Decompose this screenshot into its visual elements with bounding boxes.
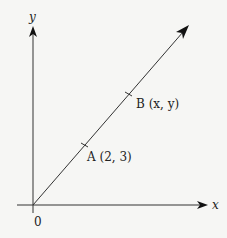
y-axis-label: y [28,10,36,24]
point-a-label: A (2, 3) [86,150,132,164]
point-a-tick [81,143,88,147]
y-axis [29,26,37,213]
coordinate-diagram: y x 0 A (2, 3) B (x, y) [0,0,227,238]
ray-arrow-icon [176,25,189,39]
origin-label: 0 [34,215,42,229]
ray-line [33,25,189,205]
point-b-label: B (x, y) [136,97,179,111]
x-axis [17,201,208,209]
x-axis-label: x [212,198,219,212]
